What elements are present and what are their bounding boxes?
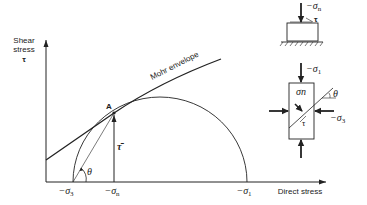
- svg-text:−σ3: −σ3: [58, 185, 74, 198]
- y-axis-symbol: τ: [22, 55, 26, 64]
- mohr-diagram: Shear stress τ Direct stress Mohr envelo…: [13, 36, 326, 198]
- plane-normal-label: σn: [296, 86, 306, 97]
- plane-normal-arrow: [295, 104, 302, 111]
- block-normal-stress-label: −σn: [306, 0, 322, 13]
- element-sigma1-label: −σ1: [306, 63, 322, 76]
- y-axis-label-line1: Shear: [13, 36, 35, 45]
- tick-sigma1: −σ1: [236, 185, 252, 198]
- angle-theta-label: θ: [87, 166, 92, 177]
- ground-hatching: [280, 42, 323, 46]
- svg-text:−σ1: −σ1: [236, 185, 252, 198]
- mohr-circle-figure: Shear stress τ Direct stress Mohr envelo…: [0, 0, 367, 205]
- tick-sigma3: −σ3: [58, 185, 74, 198]
- y-axis-label-line2: stress: [13, 45, 34, 54]
- mohr-circle: [73, 97, 247, 182]
- element-theta-arc: [329, 93, 330, 98]
- point-a-label: A: [106, 102, 112, 111]
- plane-shear-label: τ: [302, 119, 306, 128]
- element-sigma3-label: −σ3: [330, 112, 346, 125]
- mohr-envelope-label: Mohr envelope: [149, 49, 201, 81]
- point-a-marker: [112, 111, 115, 114]
- tau-bar-label: τ̄: [117, 141, 124, 152]
- block: [287, 23, 318, 41]
- sigma3-to-a-line: [73, 113, 114, 182]
- svg-text:−σn: −σn: [104, 185, 120, 198]
- block-shear-label: τ: [314, 15, 318, 24]
- tick-sigman: −σn: [104, 185, 120, 198]
- inset-block-diagram: −σn τ: [280, 0, 323, 46]
- x-axis-label: Direct stress: [278, 187, 322, 196]
- mohr-envelope: [46, 59, 221, 160]
- inset-element-diagram: θ σn τ −σ1 −σ3: [269, 63, 346, 158]
- element-theta-label: θ: [333, 88, 338, 99]
